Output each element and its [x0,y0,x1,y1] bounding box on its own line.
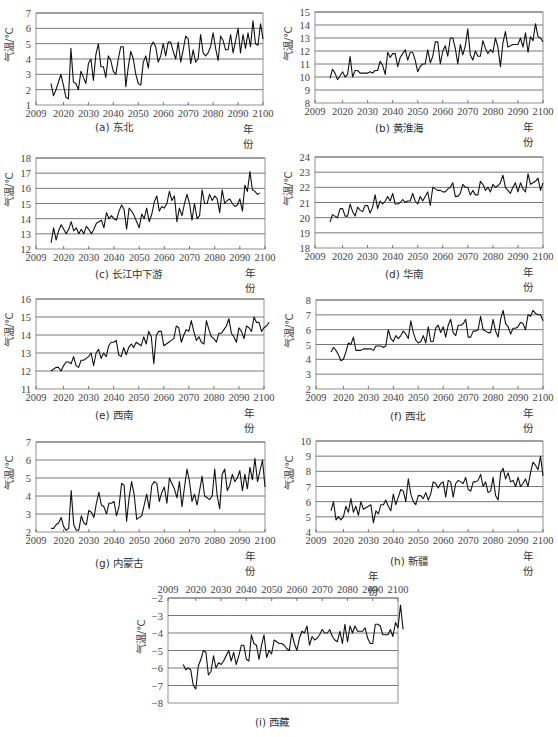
x-tick-label: 2020 [185,584,206,595]
x-tick-label: 2080 [337,584,358,595]
y-axis-label: 气温/℃ [133,618,148,653]
x-tick-label: 2030 [211,584,232,595]
y-tick-label: −5 [152,646,163,657]
y-tick-label: −7 [152,681,163,692]
x-tick-label: 2070 [312,584,333,595]
x-tick-label: 2050 [261,584,282,595]
x-axis-label: 年份 [368,568,378,598]
x-tick-label: 2040 [236,584,257,595]
chart-svg-i: 2009202020302040205020602070208020902100… [0,0,558,737]
temperature-series-line [183,605,403,689]
y-tick-label: −8 [152,698,163,709]
x-tick-label: 2100 [388,584,409,595]
x-tick-label: 2060 [286,584,307,595]
y-tick-label: −6 [152,663,163,674]
chart-caption: (i) 西藏 [255,714,289,729]
y-tick-label: −2 [152,593,163,604]
y-tick-label: −3 [152,611,163,622]
y-tick-label: −4 [152,628,164,639]
